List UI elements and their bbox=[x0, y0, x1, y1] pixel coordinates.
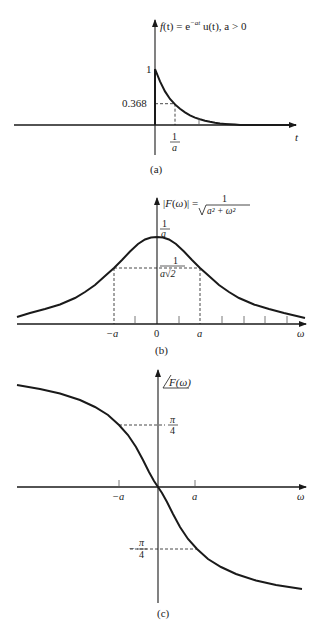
chart-b-xtick-neg-a: −a bbox=[106, 328, 118, 339]
chart-b-title-den: a² + ω² bbox=[207, 206, 235, 216]
chart-c-negpi-den: 4 bbox=[139, 549, 144, 560]
chart-c-xtick-neg-a: −a bbox=[112, 491, 124, 502]
chart-a-ytick-1: 1 bbox=[146, 63, 152, 75]
chart-b-title-lhs: |F(ω)| = bbox=[163, 197, 198, 210]
chart-a-xtick-num: 1 bbox=[172, 131, 177, 142]
chart-c-negpi-num: π bbox=[139, 537, 145, 548]
chart-a-caption: (a) bbox=[150, 163, 163, 176]
chart-b: |F(ω)| = 1 a² + ω² 1 a 1 a√2 −a 0 a ω (b… bbox=[17, 193, 306, 357]
chart-b-xtick-zero: 0 bbox=[154, 328, 159, 339]
chart-b-peak-den: a bbox=[161, 228, 166, 239]
chart-b-xlabel: ω bbox=[297, 328, 304, 339]
chart-c-xlabel: ω bbox=[297, 491, 304, 502]
chart-b-half-den: a√2 bbox=[160, 268, 176, 279]
chart-a: f(t) = e−at u(t), a > 0 1 0.368 1 a t (a… bbox=[14, 19, 299, 176]
chart-c-caption: (c) bbox=[157, 607, 170, 620]
chart-b-title-num: 1 bbox=[222, 193, 227, 204]
chart-b-xtick-a: a bbox=[197, 328, 202, 339]
chart-a-curve bbox=[155, 69, 296, 125]
chart-b-ticks bbox=[135, 316, 287, 324]
chart-c-pi-num: π bbox=[170, 414, 176, 425]
chart-c-title: F(ω) bbox=[168, 376, 191, 389]
chart-c: F(ω) π 4 − π 4 −a a ω (c) bbox=[17, 370, 306, 620]
chart-c-pi-den: 4 bbox=[170, 425, 175, 436]
figure: f(t) = e−at u(t), a > 0 1 0.368 1 a t (a… bbox=[0, 0, 322, 623]
chart-a-ytick-0368: 0.368 bbox=[122, 97, 147, 109]
chart-a-xtick-den: a bbox=[172, 142, 177, 153]
chart-b-caption: (b) bbox=[155, 344, 168, 357]
chart-c-xtick-a: a bbox=[192, 491, 197, 502]
chart-a-xlabel: t bbox=[295, 131, 299, 143]
chart-a-title: f(t) = e−at u(t), a > 0 bbox=[160, 19, 247, 33]
chart-b-half-num: 1 bbox=[173, 255, 178, 266]
chart-c-neg-sign: − bbox=[129, 543, 135, 554]
